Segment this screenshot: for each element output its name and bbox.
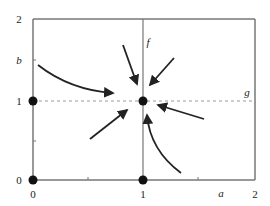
trajectory-lower-right-curve xyxy=(147,115,181,173)
equilibrium-a-axis xyxy=(139,176,148,185)
y-tick-label-0: 0 xyxy=(16,174,22,186)
x-axis-label: a xyxy=(218,187,224,199)
y-tick-label-1: 1 xyxy=(16,95,22,107)
equilibria xyxy=(29,97,148,185)
equilibrium-origin xyxy=(29,176,38,185)
x-tick-label-2: 2 xyxy=(252,188,258,200)
trajectory-top-left-straight xyxy=(123,45,137,84)
x-tick-label-1: 1 xyxy=(140,188,146,200)
x-tick-label-0: 0 xyxy=(30,188,36,200)
nullcline-f-label: f xyxy=(146,36,151,48)
trajectory-right-straight xyxy=(158,105,204,119)
phase-portrait-diagram: 2 1 0 0 1 2 b a f g xyxy=(0,0,270,206)
y-axis-label: b xyxy=(16,54,22,66)
equilibrium-interior xyxy=(139,97,148,106)
trajectory-lower-left-straight xyxy=(90,110,127,139)
trajectory-upper-left-curve xyxy=(38,65,113,93)
nullcline-g-label: g xyxy=(244,86,250,98)
equilibrium-b-axis xyxy=(29,97,38,106)
y-tick-label-2: 2 xyxy=(16,13,22,25)
trajectory-top-right-straight xyxy=(150,58,174,85)
trajectories xyxy=(38,45,204,173)
